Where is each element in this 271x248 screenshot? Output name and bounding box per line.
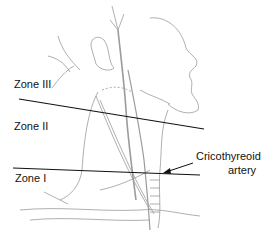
arrow-head-icon bbox=[163, 168, 171, 174]
neck-zones-figure: Zone III Zone II Zone I Cricothyreoid ar… bbox=[0, 0, 271, 248]
zone-1-label: Zone I bbox=[15, 172, 46, 184]
annotation-label-line2: artery bbox=[228, 164, 256, 176]
anatomy-sketch bbox=[20, 6, 200, 230]
zone-3-label: Zone III bbox=[14, 78, 51, 90]
annotation-label-line1: Cricothyreoid bbox=[196, 150, 261, 162]
zone-2-label: Zone II bbox=[14, 120, 48, 132]
